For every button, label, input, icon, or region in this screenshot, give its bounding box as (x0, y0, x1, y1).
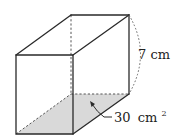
base-area-unit: cm (138, 110, 158, 125)
prism-diagram: 7 cm 30 cm 2 (0, 0, 179, 140)
height-label: 7 cm (138, 47, 170, 62)
visible-edges (16, 15, 129, 134)
base-area-value: 30 (114, 110, 131, 125)
edge-top-left-diagonal (16, 15, 71, 55)
edge-top-right-diagonal (73, 15, 129, 55)
base-area-exponent: 2 (161, 109, 166, 118)
base-area-label: 30 cm 2 (114, 109, 167, 125)
